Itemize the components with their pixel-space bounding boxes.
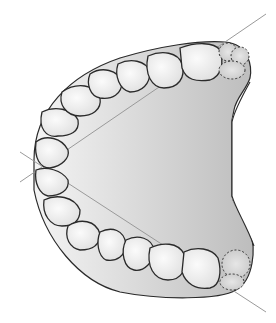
dental-arch-diagram [0,0,276,323]
tooth-upper-molar2 [180,44,222,81]
tooth-lower-molar2 [182,249,220,289]
tooth-upper-molar1 [147,53,183,88]
unerupted-molar-lower [220,250,250,290]
tooth-lower-canine [67,221,100,250]
tooth-lower-premolar1 [98,229,126,260]
arch-svg [0,0,276,323]
tooth-lower-molar1 [149,244,185,280]
